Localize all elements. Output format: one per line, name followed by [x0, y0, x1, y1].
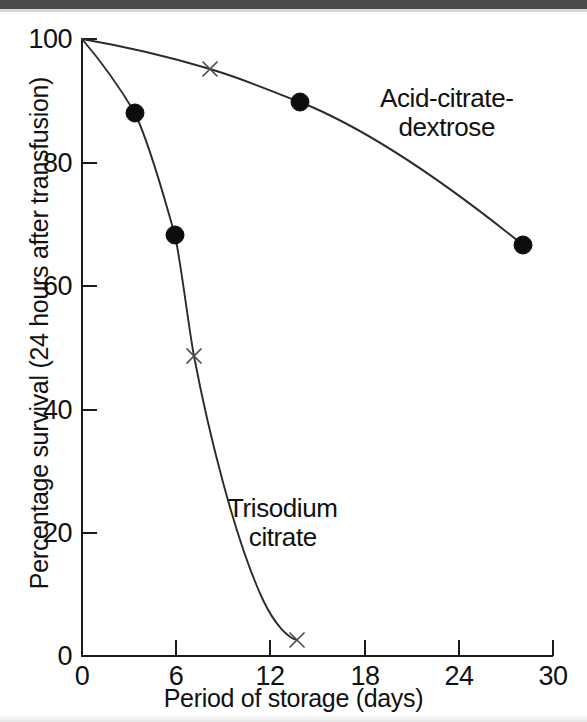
figure-root: 100 80 60 40 20 0 0 6 12 18 24 30 Period… — [0, 0, 587, 722]
y-axis-title-wrapper: Percentage survival (24 hours after tran… — [25, 3, 59, 663]
scan-bottom-artifact — [0, 714, 587, 722]
series-label-acid-citrate-dextrose: Acid-citrate- dextrose — [380, 84, 514, 142]
series-label-acd-line1: Acid-citrate- — [380, 83, 514, 113]
series-label-trisodium-line1: Trisodium — [228, 493, 338, 523]
y-axis-title: Percentage survival (24 hours after tran… — [25, 3, 54, 663]
y-tick-marks — [82, 39, 97, 533]
x-axis-title: Period of storage (days) — [0, 684, 587, 713]
series-label-trisodium-line2: citrate — [249, 522, 317, 552]
series-label-trisodium-citrate: Trisodium citrate — [228, 494, 338, 552]
x-tick-marks — [176, 640, 553, 656]
marker-crosses — [187, 62, 304, 647]
series-label-acd-line2: dextrose — [398, 112, 495, 142]
